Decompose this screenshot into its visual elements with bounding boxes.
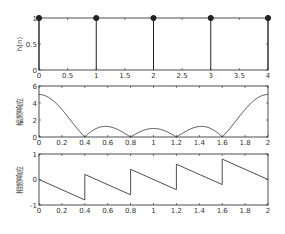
- magnitude-response-axes: 00.20.40.60.811.21.41.61.820246幅频响应: [15, 83, 270, 148]
- x-tick-label: 2.5: [177, 72, 188, 80]
- y-tick-label: 0: [33, 134, 37, 142]
- y-axis-label: 相频响应: [15, 166, 24, 194]
- y-tick-label: 1: [33, 151, 37, 159]
- stem-marker: [94, 15, 99, 20]
- phase-response-axes: 00.20.40.60.811.21.41.61.82-101相频响应: [15, 151, 270, 216]
- x-tick-label: 2: [266, 139, 270, 147]
- y-tick-label: 4: [33, 100, 38, 108]
- x-tick-label: 0.6: [102, 207, 114, 215]
- x-tick-label: 0.8: [125, 207, 136, 215]
- x-tick-label: 3.5: [234, 72, 245, 80]
- x-tick-label: 1.8: [240, 139, 251, 147]
- y-tick-label: -1: [30, 202, 37, 210]
- stem-marker: [265, 15, 270, 20]
- y-tick-label: 0.5: [26, 41, 37, 49]
- stem-marker: [151, 15, 156, 20]
- x-tick-label: 1.2: [171, 207, 182, 215]
- figure: 00.511.522.533.5400.51h(n) 00.20.40.60.8…: [0, 0, 285, 234]
- x-tick-label: 1: [94, 72, 98, 80]
- x-tick-label: 0.6: [102, 139, 114, 147]
- axes-frame: [39, 86, 268, 137]
- y-axis-label: h(n): [16, 37, 24, 52]
- x-tick-label: 0: [37, 139, 41, 147]
- x-tick-label: 1.5: [119, 72, 130, 80]
- y-tick-label: 2: [33, 117, 37, 125]
- x-tick-label: 0.8: [125, 139, 136, 147]
- y-tick-label: 0: [33, 67, 37, 75]
- impulse-response-axes: 00.511.522.533.5400.51h(n): [16, 15, 271, 81]
- stem-marker: [36, 15, 41, 20]
- x-tick-label: 1.2: [171, 139, 182, 147]
- x-tick-label: 0.2: [56, 207, 67, 215]
- x-tick-label: 0: [37, 72, 41, 80]
- x-tick-label: 0: [37, 207, 41, 215]
- x-tick-label: 1.6: [217, 139, 229, 147]
- x-tick-label: 1.6: [217, 207, 229, 215]
- x-tick-label: 0.4: [79, 139, 91, 147]
- x-tick-label: 1.4: [194, 207, 206, 215]
- x-tick-label: 4: [266, 72, 271, 80]
- x-tick-label: 1.8: [240, 207, 251, 215]
- y-tick-label: 0: [33, 176, 37, 184]
- y-axis-label: 幅频响应: [15, 98, 24, 126]
- x-tick-label: 1.4: [194, 139, 206, 147]
- x-tick-label: 3: [209, 72, 213, 80]
- x-tick-label: 0.2: [56, 139, 67, 147]
- x-tick-label: 1: [151, 207, 155, 215]
- stem-marker: [208, 15, 213, 20]
- x-tick-label: 1: [151, 139, 155, 147]
- x-tick-label: 0.4: [79, 207, 91, 215]
- x-tick-label: 2: [151, 72, 155, 80]
- y-tick-label: 6: [33, 83, 38, 91]
- x-tick-label: 0.5: [62, 72, 73, 80]
- x-tick-label: 2: [266, 207, 270, 215]
